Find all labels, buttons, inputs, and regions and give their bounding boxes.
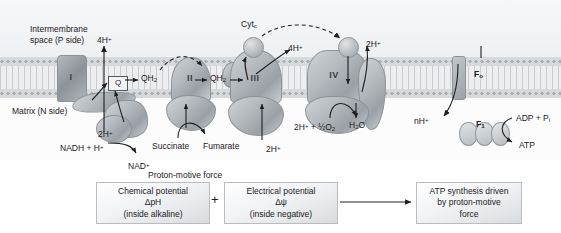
fumarate-label: Fumarate [203,141,239,152]
proton-i-out-count: 4H [97,35,108,45]
proton-iii-in-charge: + [277,144,281,151]
proton-iii-out-count: 4H [288,43,299,53]
figure-canvas: I II III IV Q QH2 QH2 Cytc Intermembrane… [0,0,561,233]
proton-i-in-count: 2H [98,129,109,139]
proton-synthase-charge: + [425,116,429,123]
pi-subscript: i [549,116,550,123]
chemical-potential-line2: ΔpH [145,197,162,209]
proton-iii-out-charge: + [299,43,303,50]
proton-iv-out-count: 2H [366,39,377,49]
oxygen-plus: + [308,122,318,132]
oxygen-subscript: 2 [332,125,335,132]
atp-synthesis-result-box: ATP synthesis driven by proton-motive fo… [416,182,522,224]
complex-iv-label: IV [307,70,361,80]
fo-subscript: o [479,72,483,79]
f1-subscript: 1 [481,122,484,129]
ubiquinol-right-text: QH [210,73,223,83]
oxygen-reactants-label: 2H+ + ½O2 [294,120,335,134]
pmf-heading: Proton-motive force [148,170,222,181]
electrical-potential-line2: Δψ [275,197,287,209]
cytochrome-c-sub: c [254,22,257,29]
proton-label-atp-synthase: nH+ [414,114,428,127]
fo-subunit-label: Fo [474,69,483,81]
atp-synthase-proton-channel [452,56,466,100]
ubiquinol-left-sub: 2 [154,76,157,83]
ubiquinol-label-right: QH2 [210,73,226,85]
proton-label-complex-iii-out: 4H+ [288,41,302,54]
proton-i-in-charge: + [109,129,113,136]
proton-iii-in-count: 2H [266,144,277,154]
electrical-potential-line1: Electrical potential [247,186,316,198]
complex-iii-label: III [232,73,278,83]
succinate-label: Succinate [152,141,189,152]
intermembrane-space-label-line2: space (P side) [30,35,84,46]
proton-synthase-count: nH [414,116,425,126]
oxygen-symbol: O [325,122,332,132]
water-o: O [359,120,366,130]
chemical-potential-line3: (inside alkaline) [123,209,182,221]
adp-text: ADP + P [516,113,549,123]
proton-label-complex-iii-in: 2H+ [266,142,280,155]
nad-plus-label: NAD+ [128,159,150,172]
ubiquinol-label-left: QH2 [141,73,157,85]
atp-label: ATP [519,140,535,151]
proton-label-complex-iv-out: 2H+ [366,37,380,50]
water-label: H2O [349,120,365,132]
cytochrome-c-label: Cytc [241,19,257,31]
complex-i-label: I [57,72,85,82]
oxygen-proton-count: 2H [294,122,305,132]
intermembrane-space-label-line1: Intermembrane [30,24,88,35]
nadh-charge: + [100,143,104,150]
proton-i-out-charge: + [108,35,112,42]
atp-result-line2: by proton-motive [437,197,500,209]
cytochrome-c-carrier-left [243,37,264,58]
ubiquinol-right-sub: 2 [223,76,226,83]
atp-result-line3: force [460,209,479,221]
chemical-potential-line1: Chemical potential [118,186,188,198]
complex-ii-label: II [171,73,209,83]
nadh-text: NADH + H [60,143,100,153]
cytochrome-c-text: Cyt [241,19,254,29]
nad-text: NAD [128,161,146,171]
cytochrome-c-carrier-right [338,37,359,58]
proton-label-complex-i-in: 2H+ [98,127,112,140]
adp-pi-label: ADP + Pi [516,113,550,125]
proton-iv-out-charge: + [377,39,381,46]
matrix-label: Matrix (N side) [12,106,67,117]
atp-result-line1: ATP synthesis driven [429,186,508,198]
nad-charge: + [146,161,150,168]
f1-subunit-label: F1 [476,119,485,131]
pmf-plus-operator: + [211,194,219,205]
electrical-potential-line3: (inside negative) [250,209,312,221]
proton-label-complex-i-out: 4H+ [97,33,111,46]
atp-synthase-f1-lobe-3 [491,122,510,146]
electrical-potential-box: Electrical potential Δψ (inside negative… [224,182,338,224]
ubiquinol-left-text: QH [141,73,154,83]
nadh-label: NADH + H+ [60,141,104,154]
ubiquinone-q-box: Q [108,76,128,91]
chemical-potential-box: Chemical potential ΔpH (inside alkaline) [96,182,210,224]
